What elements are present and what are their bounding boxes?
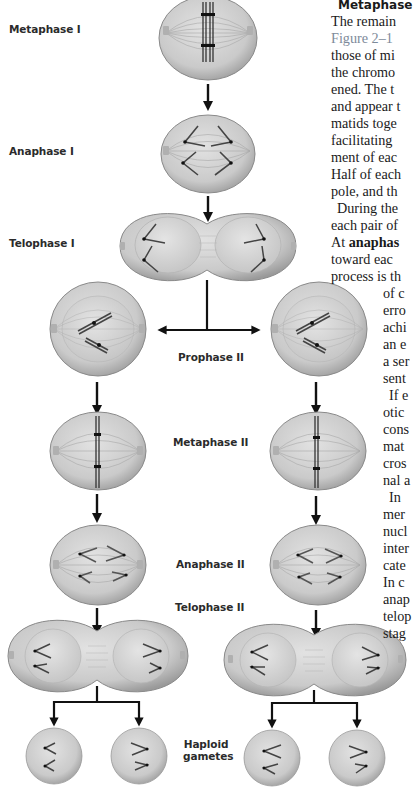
cell-metaphase-1 [159, 0, 257, 80]
body-text-line: In c [383, 574, 405, 591]
label-anaphase-1: Anaphase I [9, 145, 74, 157]
body-text-line: mer [383, 506, 405, 523]
body-text-line[interactable]: Figure 2–1 [331, 30, 393, 47]
body-text-line: matids toge [331, 115, 397, 132]
label-telophase-1: Telophase I [9, 237, 75, 249]
cell-anaphase-1 [161, 115, 255, 193]
label-metaphase-1: Metaphase I [9, 23, 81, 35]
cell-telophase-1 [120, 214, 296, 281]
cell-telophase-2-right [224, 624, 406, 696]
body-text-line: an e [383, 336, 406, 353]
body-text-line: toward eac [331, 251, 393, 268]
body-text-line: stag [383, 625, 406, 642]
cell-metaphase-2-right [270, 412, 366, 490]
label-anaphase-2: Anaphase II [176, 558, 245, 570]
body-text-line: telop [383, 608, 411, 625]
body-text-line: sent [383, 370, 406, 387]
body-text-line: process is th [331, 268, 401, 285]
body-text-line: inter [383, 540, 409, 557]
body-text-line: nucl [383, 523, 407, 540]
body-text-line: nal a [383, 472, 410, 489]
body-text-line: cate [383, 557, 406, 574]
gamete-2 [111, 728, 167, 784]
body-text-line: otic [383, 404, 404, 421]
body-text-line: cons [383, 421, 409, 438]
cell-prophase-2-left [50, 282, 146, 376]
body-text-line: Half of each [331, 166, 401, 183]
body-text-line: erro [383, 302, 406, 319]
body-text-line: mat [383, 438, 404, 455]
label-metaphase-2: Metaphase II [173, 436, 248, 448]
cell-anaphase-2-right [270, 525, 366, 605]
body-text-line: pole, and th [331, 183, 398, 200]
body-text-line: the chromo [331, 64, 395, 81]
body-text-line: During the [337, 200, 398, 217]
body-text-line: The remain [331, 13, 396, 30]
body-text-line: achi [383, 319, 407, 336]
label-telophase-2: Telophase II [175, 601, 244, 613]
body-text-line: ened. The t [331, 81, 394, 98]
label-haploid-gametes: Haploid gametes [183, 738, 229, 762]
body-text-line: of c [383, 285, 405, 302]
body-text-line: facilitating [331, 132, 392, 149]
body-text-line: anap [383, 591, 410, 608]
gamete-1 [26, 728, 82, 784]
cell-telophase-2-left [8, 620, 188, 692]
cell-anaphase-2-left [50, 525, 146, 605]
cell-prophase-2-right [271, 282, 367, 376]
body-text-line: At anaphas [331, 234, 399, 251]
body-text-line: a ser [383, 353, 409, 370]
body-text-line: each pair of [331, 217, 398, 234]
body-text-line: those of mi [331, 47, 395, 64]
split-arrow-telophase-1 [162, 280, 256, 330]
label-haploid-gametes-line1: Haploid [183, 738, 229, 750]
body-text-line: If e [389, 387, 408, 404]
gamete-3 [244, 730, 300, 786]
body-text-line: In [389, 489, 401, 506]
body-text-line: cros [383, 455, 407, 472]
gamete-4 [329, 730, 385, 786]
cell-metaphase-2-left [50, 412, 146, 490]
body-text-line: ment of eac [331, 149, 397, 166]
label-haploid-gametes-line2: gametes [183, 750, 229, 762]
body-text-line: and appear t [331, 98, 400, 115]
label-prophase-2: Prophase II [178, 351, 244, 363]
